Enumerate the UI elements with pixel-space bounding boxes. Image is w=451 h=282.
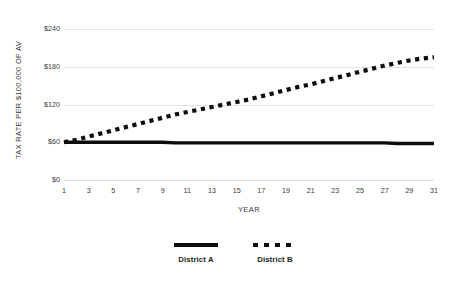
x-tick-label: 23	[326, 186, 344, 195]
x-tick-label: 3	[80, 186, 98, 195]
chart-legend: District A District B	[0, 240, 451, 280]
x-tick-label: 25	[351, 186, 369, 195]
x-tick-label: 7	[129, 186, 147, 195]
y-tick-label: $180	[4, 63, 60, 71]
x-tick-label: 21	[302, 186, 320, 195]
tax-rate-chart: TAX RATE PER $100,000 OF AV $0$60$120$18…	[0, 0, 451, 282]
x-axis-title: YEAR	[64, 205, 434, 214]
x-tick-label: 5	[104, 186, 122, 195]
x-tick-label: 31	[425, 186, 443, 195]
x-tick-label: 13	[203, 186, 221, 195]
y-tick-label: $60	[4, 138, 60, 146]
legend-swatch-dotted-icon	[215, 240, 335, 250]
x-tick-label: 1	[55, 186, 73, 195]
x-tick-label: 11	[178, 186, 196, 195]
x-tick-label: 17	[252, 186, 270, 195]
x-tick-label: 9	[154, 186, 172, 195]
x-tick-label: 29	[400, 186, 418, 195]
x-tick-label: 27	[376, 186, 394, 195]
series-line-district-b	[64, 57, 434, 142]
x-tick-label: 19	[277, 186, 295, 195]
y-tick-label: $120	[4, 101, 60, 109]
x-tick-label: 15	[228, 186, 246, 195]
y-tick-label: $0	[4, 176, 60, 184]
y-tick-label: $240	[4, 25, 60, 33]
legend-entry-district-b: District B	[215, 240, 335, 264]
series-line-district-a	[64, 142, 434, 143]
legend-label-district-b: District B	[215, 255, 335, 264]
